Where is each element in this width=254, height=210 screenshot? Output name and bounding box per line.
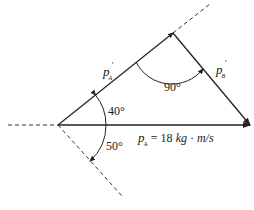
label-angle-50: 50° (106, 139, 123, 153)
momentum-vector-diagram: pA′ pB′ 90° 40° 50° pA = 18 kg · m/s (0, 0, 254, 210)
dashed-reference-lines (8, 4, 210, 196)
dashed-line-upper-extension (173, 4, 210, 33)
arc-40-degrees (96, 95, 107, 125)
vectors (58, 33, 250, 125)
labels: pA′ pB′ 90° 40° 50° pA = 18 kg · m/s (102, 58, 227, 153)
arc-50-degrees (90, 125, 106, 161)
vector-pB-prime (173, 33, 250, 125)
label-pB-prime: pB′ (215, 58, 227, 79)
label-angle-40: 40° (108, 104, 125, 118)
label-pA-momentum: pA = 18 kg · m/s (137, 130, 214, 147)
label-pA-prime: pA′ (102, 60, 114, 81)
label-angle-90: 90° (164, 80, 181, 94)
